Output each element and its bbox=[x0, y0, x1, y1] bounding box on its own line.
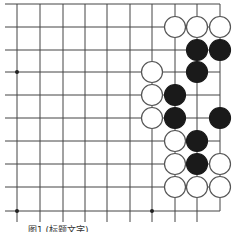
go-board-diagram bbox=[0, 0, 233, 232]
white-stone-icon bbox=[187, 177, 208, 198]
star-point-icon bbox=[15, 209, 19, 213]
black-stone-icon bbox=[187, 62, 208, 83]
star-point-icon bbox=[150, 209, 154, 213]
black-stone-icon bbox=[210, 108, 231, 129]
white-stone-icon bbox=[142, 62, 163, 83]
stones bbox=[142, 17, 231, 198]
white-stone-icon bbox=[142, 108, 163, 129]
black-stone-icon bbox=[187, 154, 208, 175]
black-stone-icon bbox=[210, 40, 231, 61]
black-stone-icon bbox=[165, 108, 186, 129]
white-stone-icon bbox=[165, 131, 186, 152]
black-stone-icon bbox=[187, 131, 208, 152]
figure-caption: 图1 (标题文字) bbox=[28, 225, 89, 232]
white-stone-icon bbox=[165, 17, 186, 38]
star-point-icon bbox=[15, 70, 19, 74]
white-stone-icon bbox=[187, 17, 208, 38]
white-stone-icon bbox=[210, 17, 231, 38]
white-stone-icon bbox=[210, 154, 231, 175]
white-stone-icon bbox=[165, 154, 186, 175]
black-stone-icon bbox=[187, 40, 208, 61]
black-stone-icon bbox=[165, 85, 186, 106]
white-stone-icon bbox=[142, 85, 163, 106]
white-stone-icon bbox=[210, 177, 231, 198]
white-stone-icon bbox=[165, 177, 186, 198]
